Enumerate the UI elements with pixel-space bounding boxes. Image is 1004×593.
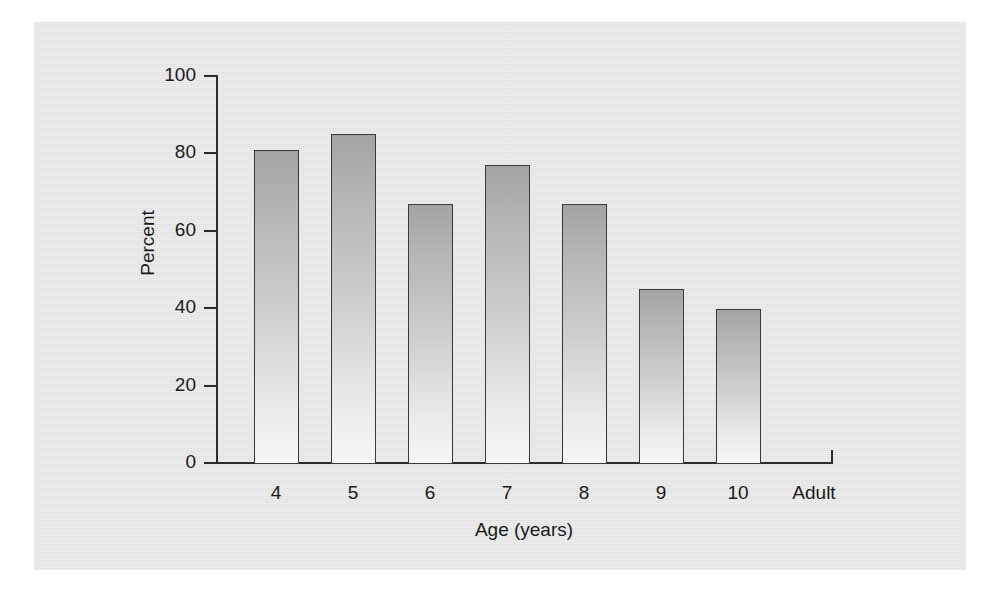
y-tick-40 <box>204 307 217 309</box>
y-tick-label-20: 20 <box>136 375 196 394</box>
y-tick-label-80: 80 <box>136 142 196 161</box>
bar-age-6 <box>408 204 453 464</box>
y-tick-label-0: 0 <box>136 452 196 471</box>
bar-age-10 <box>716 309 761 464</box>
y-tick-60 <box>204 230 217 232</box>
x-tick-label-adult: Adult <box>769 482 859 504</box>
bar-age-5 <box>331 134 376 464</box>
x-axis-title: Age (years) <box>216 519 832 541</box>
x-tick-boundary-8 <box>831 450 833 464</box>
y-axis-line <box>216 75 218 464</box>
y-tick-100 <box>204 75 217 77</box>
bar-chart: 100 80 60 40 20 0 Percent <box>0 0 1004 593</box>
y-axis-title: Percent <box>137 173 159 313</box>
y-tick-20 <box>204 385 217 387</box>
bar-age-4 <box>254 150 299 464</box>
y-tick-label-100: 100 <box>136 65 196 84</box>
bar-age-7 <box>485 165 530 464</box>
bar-age-9 <box>639 289 684 464</box>
y-tick-80 <box>204 152 217 154</box>
bar-age-8 <box>562 204 607 464</box>
figure-page: 100 80 60 40 20 0 Percent <box>0 0 1004 593</box>
x-tick-boundary-0 <box>216 450 218 464</box>
